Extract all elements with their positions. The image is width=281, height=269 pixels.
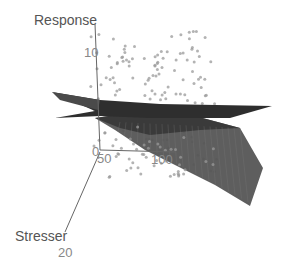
x-tick-100: 100 — [151, 153, 173, 166]
z-axis-line — [95, 24, 100, 150]
y-tick-20: 20 — [58, 246, 72, 259]
surface-sloping — [95, 108, 263, 206]
y-axis-line — [65, 152, 100, 232]
z-tick-10: 10 — [84, 46, 98, 59]
z-axis-label: Response — [34, 13, 97, 27]
x-tick-50: 50 — [97, 152, 111, 165]
y-axis-label: Stresser — [15, 229, 67, 243]
